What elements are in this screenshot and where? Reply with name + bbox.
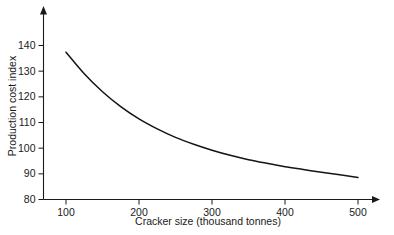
chart-canvas: 8090100110120130140 100200300400500 Crac… bbox=[0, 0, 394, 235]
chart-figure: 8090100110120130140 100200300400500 Crac… bbox=[0, 0, 394, 235]
x-tick-group bbox=[66, 200, 358, 205]
x-axis-title: Cracker size (thousand tonnes) bbox=[135, 215, 281, 227]
y-tick-label: 90 bbox=[24, 167, 36, 179]
y-axis-arrow-icon bbox=[40, 6, 47, 15]
y-tick-label: 80 bbox=[24, 193, 36, 205]
x-axis-arrow-icon bbox=[372, 196, 380, 203]
y-axis-title: Production cost index bbox=[6, 55, 18, 156]
y-tick-label: 110 bbox=[19, 116, 36, 128]
y-tick-label: 100 bbox=[18, 142, 36, 154]
x-tick-label: 500 bbox=[349, 206, 367, 218]
y-tick-group bbox=[39, 46, 44, 200]
y-tick-label: 140 bbox=[18, 39, 36, 51]
x-tick-label: 100 bbox=[57, 206, 75, 218]
y-tick-label-group: 8090100110120130140 bbox=[18, 39, 36, 205]
y-tick-label: 120 bbox=[18, 90, 36, 102]
y-tick-label: 130 bbox=[18, 65, 36, 77]
data-curve-production-cost bbox=[66, 52, 358, 177]
